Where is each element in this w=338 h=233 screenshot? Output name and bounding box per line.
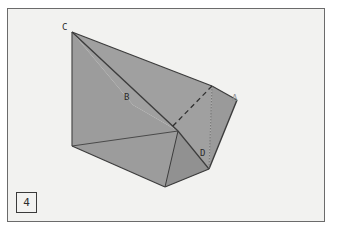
figure-number-box: 4 (16, 192, 37, 213)
vertex-label-d: D (200, 149, 205, 158)
vertex-label-a: A (232, 94, 237, 103)
vertex-label-c: C (62, 23, 67, 32)
figure-container: C B A D 4 (0, 0, 338, 233)
figure-number-label: 4 (23, 197, 30, 208)
vertex-label-b: B (124, 93, 129, 102)
geometry-drawing (0, 0, 338, 233)
